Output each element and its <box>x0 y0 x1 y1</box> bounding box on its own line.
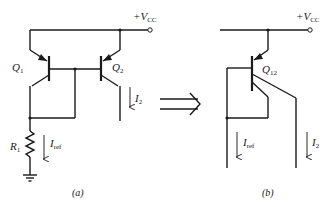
r1-label: R1 <box>9 140 21 154</box>
caption-a: (a) <box>72 187 84 199</box>
i2-label-b: I2 <box>311 136 320 150</box>
diode-connection <box>28 69 75 120</box>
q12-label: Q12 <box>262 63 277 77</box>
ground-icon <box>23 175 37 181</box>
vcc-label-a: +VCC <box>133 10 157 24</box>
caption-b: (b) <box>262 187 274 199</box>
supply-rail-a <box>30 28 152 32</box>
panel-a: +VCC Q1 Q2 <box>9 10 157 199</box>
vcc-label-b: +VCC <box>296 10 320 24</box>
transistor-q2 <box>101 30 120 121</box>
q1-label: Q1 <box>12 61 24 75</box>
emitter-arrow-icon <box>38 54 47 61</box>
iref-label-b: Iref <box>242 136 255 150</box>
iref-label-a: Iref <box>49 137 62 151</box>
transistor-q12 <box>225 30 296 168</box>
emitter-arrow-icon <box>103 54 112 61</box>
double-arrow-right-icon <box>160 93 200 115</box>
transistor-q1 <box>30 30 49 118</box>
supply-rail-b <box>220 28 312 32</box>
q2-label: Q2 <box>112 61 124 75</box>
circuit-diagram: +VCC Q1 Q2 <box>0 0 335 207</box>
panel-b: +VCC Q12 Iref I2 (b) <box>220 10 320 199</box>
resistor-r1 <box>26 118 34 175</box>
i2-label-a: I2 <box>134 92 143 106</box>
